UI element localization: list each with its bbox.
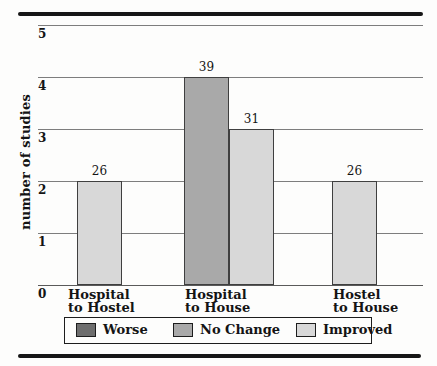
gridline: [38, 77, 423, 78]
y-axis-title: number of studies: [18, 82, 34, 242]
bar-value-label: 26: [67, 165, 132, 178]
bar: [229, 129, 274, 285]
figure: 01234526393126 number of studies Hospita…: [0, 0, 437, 366]
y-tick-label: 0: [38, 288, 58, 300]
legend-swatch: [296, 323, 316, 337]
legend: WorseNo ChangeImproved: [64, 317, 372, 344]
legend-item-label: Worse: [103, 323, 148, 337]
legend-swatch: [173, 323, 193, 337]
category-label-line2: to House: [333, 301, 398, 314]
legend-swatch: [76, 323, 96, 337]
legend-item-label: Improved: [323, 323, 392, 337]
bar-value-label: 26: [322, 165, 387, 178]
bar: [184, 77, 229, 285]
bar-value-label: 31: [219, 113, 284, 126]
category-label-line2: to Hostel: [68, 301, 135, 314]
category-label: Hospitalto House: [185, 288, 250, 314]
y-tick-label: 5: [38, 28, 58, 40]
category-label: Hostelto House: [333, 288, 398, 314]
top-rule: [18, 12, 423, 16]
y-tick-label: 2: [38, 184, 58, 196]
category-label-line2: to House: [185, 301, 250, 314]
gridline: [38, 25, 423, 26]
legend-item-label: No Change: [200, 323, 280, 337]
y-tick-label: 3: [38, 132, 58, 144]
gridline: [38, 285, 423, 286]
category-label: Hospitalto Hostel: [68, 288, 135, 314]
y-tick-label: 4: [38, 80, 58, 92]
y-tick-label: 1: [38, 236, 58, 248]
bar-value-label: 39: [174, 61, 239, 74]
bar: [332, 181, 377, 285]
bottom-rule: [18, 354, 421, 358]
bar: [77, 181, 122, 285]
